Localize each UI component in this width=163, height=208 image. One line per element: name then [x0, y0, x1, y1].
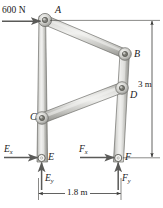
member-AE — [37, 16, 48, 162]
label-ex: Ex — [4, 145, 13, 155]
member-AB — [44, 15, 126, 60]
label-ey: Ey — [45, 174, 54, 184]
joint-B — [119, 48, 132, 61]
label-ex-sub: x — [10, 148, 13, 155]
label-point-b: B — [134, 49, 140, 59]
label-fx: Fx — [79, 145, 88, 155]
label-fx-sub: x — [85, 148, 88, 155]
label-point-e: E — [48, 152, 54, 162]
joint-E — [38, 154, 45, 161]
label-dim-height: 3 m — [138, 80, 152, 89]
statics-figure: 600 N A B D C E F Ex Ey Fx Fy 3 m 1.8 m — [0, 0, 163, 208]
member-CD — [40, 83, 123, 124]
joint-C — [36, 112, 49, 125]
member-BF — [113, 50, 129, 162]
label-dim-width: 1.8 m — [65, 188, 90, 197]
joint-F — [115, 154, 122, 161]
label-fy: Fy — [122, 174, 131, 184]
label-point-c: C — [30, 112, 37, 122]
figure-canvas — [0, 0, 163, 208]
label-ey-sub: y — [51, 177, 54, 184]
label-600n: 600 N — [2, 6, 26, 16]
label-point-d: D — [130, 90, 137, 100]
label-fy-sub: y — [128, 177, 131, 184]
joint-D — [116, 82, 129, 95]
label-point-a: A — [55, 5, 61, 15]
label-point-f: F — [125, 152, 131, 162]
joint-A — [38, 13, 51, 26]
